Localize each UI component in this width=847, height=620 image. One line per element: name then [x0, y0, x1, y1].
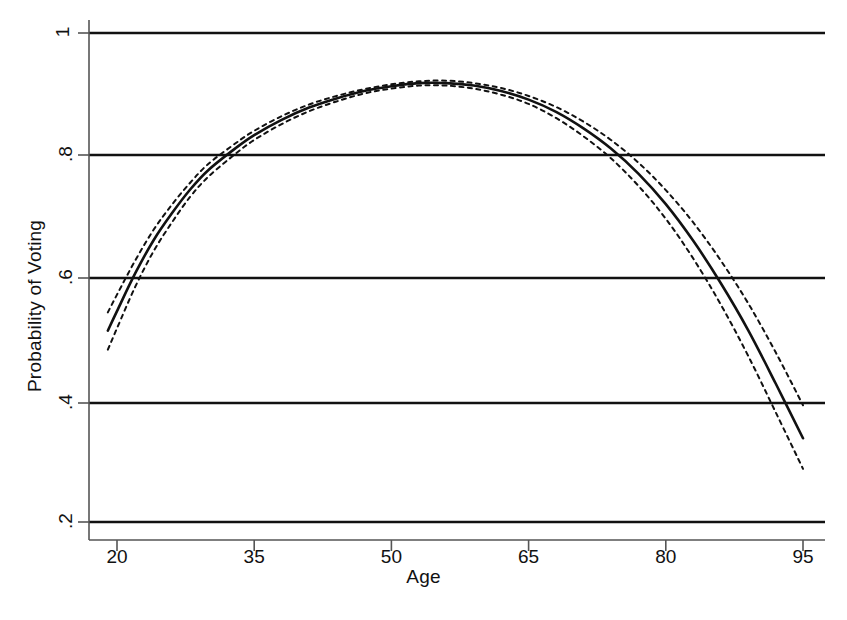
x-tick-label: 65 [518, 546, 539, 568]
axis-spines [89, 20, 825, 540]
y-tick-label-text: .6 [55, 269, 77, 285]
x-tick-label: 35 [244, 546, 265, 568]
x-tick-label: 50 [381, 546, 402, 568]
gridlines [89, 33, 825, 522]
prediction-line [108, 83, 803, 438]
x-tick-label: 95 [792, 546, 813, 568]
x-tick-label: 20 [106, 546, 127, 568]
y-tick-label: .8 [58, 143, 74, 165]
y-tick-label: 1 [58, 21, 69, 43]
y-tick-label-text: .4 [55, 394, 77, 410]
y-tick-label-text: .8 [55, 146, 77, 162]
data-series [108, 81, 803, 469]
confidence-band-line [108, 81, 803, 406]
x-tick-label: 80 [655, 546, 676, 568]
axis-ticks [78, 33, 803, 551]
chart-figure: Probability of Voting Age 203550658095 .… [0, 0, 847, 620]
y-tick-label: .6 [58, 266, 74, 288]
y-tick-label: .2 [58, 510, 74, 532]
y-axis-title-text: Probability of Voting [24, 220, 46, 392]
plot-area [0, 0, 847, 620]
y-tick-label-text: 1 [52, 27, 74, 38]
y-tick-label: .4 [58, 391, 74, 413]
y-tick-label-text: .2 [55, 513, 77, 529]
x-axis-title: Age [0, 566, 847, 588]
